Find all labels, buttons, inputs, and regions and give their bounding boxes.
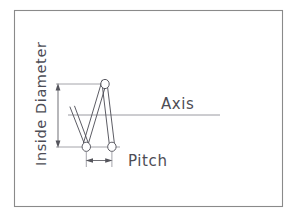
pitch-label: Pitch <box>128 152 168 170</box>
pitch-arrow-right-icon <box>105 158 112 163</box>
spring-diagram-svg: Inside Diameter Axis Pitch <box>0 0 297 220</box>
wire-left-leg-inner <box>84 80 103 142</box>
axis-label: Axis <box>161 95 195 113</box>
wire-end-bottom-right <box>108 142 116 151</box>
spring-diagram-canvas: Inside Diameter Axis Pitch <box>0 0 297 220</box>
wire-end-bottom-left <box>82 142 90 151</box>
diagram-frame-border <box>15 11 283 207</box>
pitch-arrow-left-icon <box>86 158 93 163</box>
wire-end-apex <box>101 79 109 88</box>
wire-left-leg-outer <box>88 81 107 144</box>
inside-diameter-label: Inside Diameter <box>33 42 49 166</box>
